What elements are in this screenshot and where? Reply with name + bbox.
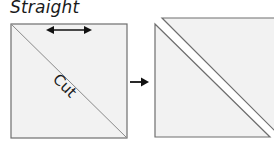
square-before-cut: Cut: [11, 24, 127, 138]
right-arrow-icon: [130, 78, 149, 87]
diagram-graphic: Cut: [0, 0, 274, 142]
diagram-canvas: Straight Cut: [0, 0, 274, 142]
two-triangles-after-cut: [155, 18, 274, 137]
